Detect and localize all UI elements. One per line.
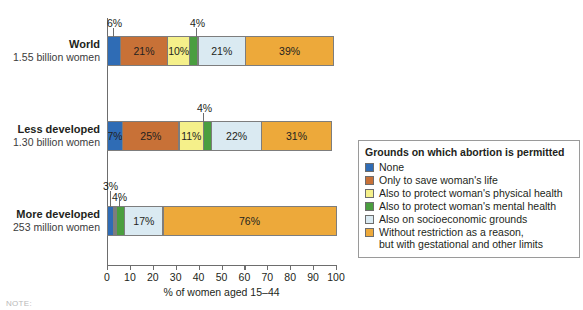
legend-swatch-icon xyxy=(365,176,374,185)
legend-item[interactable]: None xyxy=(365,161,573,173)
leader-less-mental xyxy=(203,113,204,122)
x-axis-tick xyxy=(222,265,223,270)
bar-segment-label: 10% xyxy=(168,45,189,57)
legend-swatch-icon xyxy=(365,228,374,237)
legend-swatch-icon xyxy=(365,202,374,211)
x-axis-tick xyxy=(107,265,108,270)
bar-segment: 76% xyxy=(163,206,337,236)
bar-segment: 25% xyxy=(122,121,179,151)
bar-segment: 10% xyxy=(167,36,190,66)
x-axis-tick xyxy=(313,265,314,270)
callout-world-mental: 4% xyxy=(190,17,205,29)
x-axis-tick xyxy=(199,265,200,270)
x-axis-tick xyxy=(153,265,154,270)
bar-segment: 39% xyxy=(245,36,334,66)
legend-swatch-icon xyxy=(365,163,374,172)
legend-item[interactable]: Also to protect woman's physical health xyxy=(365,187,573,199)
bar-segment: 7% xyxy=(107,121,123,151)
legend-item-label: Also to protect woman's mental health xyxy=(379,200,556,212)
leader-more-mental xyxy=(119,198,120,207)
row-label-world-sublabel: 1.55 billion women xyxy=(0,51,100,64)
row-label-less-developed-name: Less developed xyxy=(0,123,100,136)
bar-segment-label: 21% xyxy=(211,45,232,57)
legend-item-label-line2: but with gestational and other limits xyxy=(379,238,543,250)
legend-item[interactable]: Without restriction as a reason,but with… xyxy=(365,226,573,250)
leader-world-none xyxy=(113,28,114,37)
legend-item-label: Without restriction as a reason,but with… xyxy=(379,226,543,250)
row-label-more-developed-sublabel: 253 million women xyxy=(0,221,100,234)
x-axis-tick xyxy=(244,265,245,270)
callout-less-mental: 4% xyxy=(197,102,212,114)
x-axis-tick-label: 100 xyxy=(321,271,351,283)
bar-segment: 11% xyxy=(179,121,204,151)
bar-segment: 22% xyxy=(211,121,261,151)
bar-more-developed: 17%76% xyxy=(107,206,337,236)
bar-world: 21%10%21%39% xyxy=(107,36,334,66)
bar-segment-label: 39% xyxy=(279,45,300,57)
bar-segment: 21% xyxy=(120,36,168,66)
bar-segment-label: 17% xyxy=(133,215,154,227)
bar-segment-label: 25% xyxy=(140,130,161,142)
legend-item-label: Only to save woman's life xyxy=(379,174,498,186)
bar-segment: 21% xyxy=(198,36,246,66)
x-axis-label: % of women aged 15–44 xyxy=(107,286,336,298)
bar-segment: 17% xyxy=(124,206,163,236)
bar-segment-label: 11% xyxy=(181,130,201,142)
row-label-world-name: World xyxy=(0,38,100,51)
stacked-bar-chart: 0102030405060708090100 % of women aged 1… xyxy=(0,0,583,310)
bar-segment: 31% xyxy=(261,121,332,151)
x-axis-tick xyxy=(176,265,177,270)
legend: Grounds on which abortion is permitted N… xyxy=(358,140,580,258)
callout-world-none: 6% xyxy=(107,17,122,29)
row-label-world: World 1.55 billion women xyxy=(0,38,100,64)
row-label-more-developed: More developed 253 million women xyxy=(0,208,100,234)
x-axis-tick xyxy=(336,265,337,270)
legend-item[interactable]: Also on socioeconomic grounds xyxy=(365,213,573,225)
footer-note: NOTE: xyxy=(6,299,32,308)
bar-less-developed: 7%25%11%22%31% xyxy=(107,121,332,151)
row-label-less-developed: Less developed 1.30 billion women xyxy=(0,123,100,149)
row-label-less-developed-sublabel: 1.30 billion women xyxy=(0,136,100,149)
x-axis-tick xyxy=(130,265,131,270)
x-axis-tick xyxy=(267,265,268,270)
legend-item-label: None xyxy=(379,161,404,173)
legend-item[interactable]: Also to protect woman's mental health xyxy=(365,200,573,212)
leader-more-none xyxy=(110,191,111,207)
legend-title: Grounds on which abortion is permitted xyxy=(365,146,573,158)
x-axis-tick xyxy=(290,265,291,270)
legend-item-label: Also on socioeconomic grounds xyxy=(379,213,527,225)
bar-segment-label: 31% xyxy=(286,130,307,142)
bar-segment-label: 7% xyxy=(107,130,122,142)
bar-segment xyxy=(107,36,121,66)
legend-item[interactable]: Only to save woman's life xyxy=(365,174,573,186)
bar-segment-label: 21% xyxy=(133,45,154,57)
bar-segment-label: 22% xyxy=(226,130,247,142)
legend-swatch-icon xyxy=(365,189,374,198)
leader-world-mental xyxy=(196,28,197,37)
legend-item-label: Also to protect woman's physical health xyxy=(379,187,563,199)
legend-swatch-icon xyxy=(365,215,374,224)
row-label-more-developed-name: More developed xyxy=(0,208,100,221)
bar-segment-label: 76% xyxy=(239,215,260,227)
legend-item-list: NoneOnly to save woman's lifeAlso to pro… xyxy=(365,161,573,250)
